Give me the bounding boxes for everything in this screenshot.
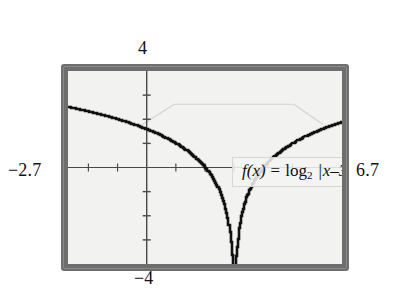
window-xmin-label: −2.7 — [8, 160, 41, 181]
equation-callout: f(x)=log2|x–3| — [232, 157, 342, 187]
equation-equals-sign: = — [266, 161, 286, 180]
calculator-screen: f(x)=log2|x–3| — [68, 71, 342, 264]
equation-argument: x–3 — [323, 161, 342, 180]
calculator-bezel: f(x)=log2|x–3| — [61, 64, 349, 271]
equation-abs-open: | — [312, 161, 322, 180]
window-ymin-label: −4 — [134, 268, 154, 289]
window-ymax-label: 4 — [138, 38, 147, 59]
equation-log: log — [285, 161, 307, 180]
figure-root: 4 −2.7 6.7 −4 — [0, 0, 404, 299]
callout-leader-lines — [142, 104, 323, 124]
curve-branch-left — [68, 107, 234, 264]
window-xmax-label: 6.7 — [356, 160, 379, 181]
curve-branch-right — [234, 122, 342, 264]
equation-lhs: f(x) — [242, 161, 266, 180]
callout-leader — [294, 104, 323, 124]
